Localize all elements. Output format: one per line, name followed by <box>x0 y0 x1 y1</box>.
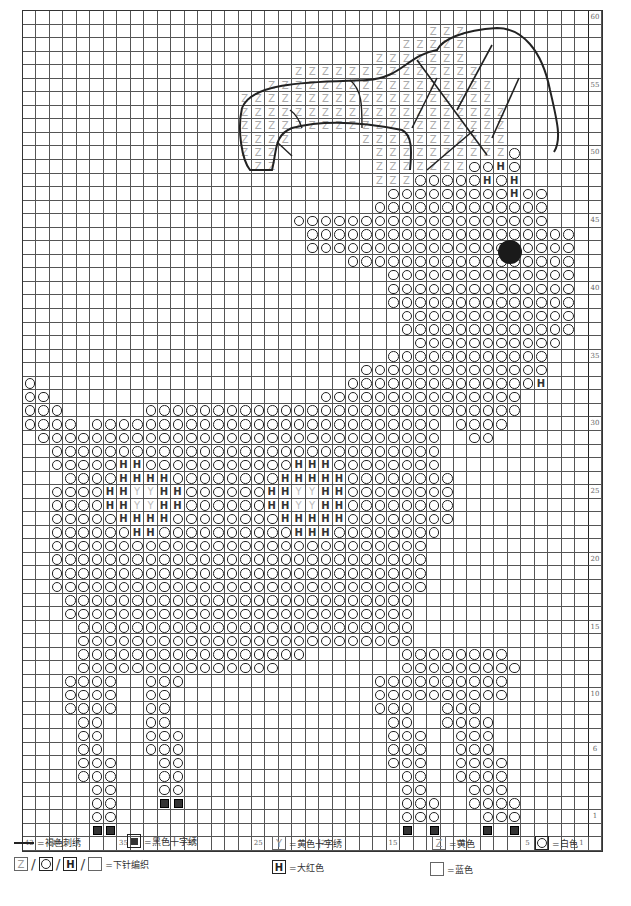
row-label <box>589 336 602 350</box>
blue-stitch <box>63 92 76 106</box>
white-stitch <box>467 255 480 269</box>
red-stitch: H <box>104 485 117 499</box>
white-stitch <box>319 417 332 431</box>
blue-stitch <box>265 174 278 188</box>
white-stitch <box>104 675 117 689</box>
blue-stitch <box>548 661 561 675</box>
white-stitch <box>239 458 252 472</box>
blue-stitch <box>279 756 292 770</box>
white-stitch <box>387 241 400 255</box>
blue-stitch <box>144 350 157 364</box>
white-stitch <box>198 607 211 621</box>
blue-stitch <box>562 566 575 580</box>
white-stitch <box>427 350 440 364</box>
blue-stitch <box>77 255 90 269</box>
blue-stitch <box>252 729 265 743</box>
blue-stitch <box>265 241 278 255</box>
blue-stitch <box>171 688 184 702</box>
blue-stitch <box>50 25 63 39</box>
blue-stitch <box>333 309 346 323</box>
white-stitch <box>239 661 252 675</box>
white-stitch <box>77 458 90 472</box>
blue-stitch <box>198 268 211 282</box>
white-stitch <box>131 553 144 567</box>
blue-stitch <box>306 201 319 215</box>
yellow-stitch: Z <box>427 25 440 39</box>
white-stitch <box>77 526 90 540</box>
white-stitch <box>481 309 494 323</box>
white-stitch <box>360 566 373 580</box>
chart-grid: 60ZZZZZZZZZZZZZZZZZZZZZZZZZZZZZZZZZZZZZZ… <box>22 10 603 852</box>
blue-stitch <box>494 445 507 459</box>
yellow-stitch: Z <box>467 79 480 93</box>
white-stitch <box>346 214 359 228</box>
blue-stitch <box>508 106 521 120</box>
blue-stitch <box>548 201 561 215</box>
white-stitch <box>387 675 400 689</box>
white-stitch <box>319 634 332 648</box>
blue-stitch <box>265 756 278 770</box>
white-stitch <box>333 214 346 228</box>
blue-stitch <box>279 688 292 702</box>
chart-row: ZZZZZZZ <box>23 52 602 66</box>
blue-stitch <box>117 743 130 757</box>
red-stitch: H <box>171 485 184 499</box>
blue-stitch <box>77 797 90 811</box>
yellow-stitch: Z <box>427 160 440 174</box>
blue-stitch <box>185 133 198 147</box>
blue-stitch <box>77 323 90 337</box>
blue-stitch <box>508 634 521 648</box>
white-stitch <box>319 621 332 635</box>
blue-stitch <box>535 594 548 608</box>
row-label: 45 <box>589 214 602 228</box>
blue-stitch <box>171 146 184 160</box>
yellow-stitch: Z <box>454 52 467 66</box>
blue-stitch <box>239 295 252 309</box>
white-stitch <box>333 526 346 540</box>
chart-row <box>23 363 602 377</box>
white-stitch <box>144 648 157 662</box>
white-stitch <box>239 404 252 418</box>
white-stitch <box>508 160 521 174</box>
blue-stitch <box>562 458 575 472</box>
white-stitch <box>346 377 359 391</box>
blue-stitch <box>292 282 305 296</box>
blue-stitch <box>158 390 171 404</box>
blue-stitch <box>265 228 278 242</box>
blue-stitch <box>171 52 184 66</box>
blue-stitch <box>36 526 49 540</box>
blue-stitch <box>521 634 534 648</box>
white-stitch <box>521 187 534 201</box>
white-stitch <box>117 621 130 635</box>
blue-stitch <box>548 499 561 513</box>
blue-stitch <box>306 133 319 147</box>
blue-stitch <box>441 729 454 743</box>
chart-row <box>23 770 602 784</box>
white-stitch <box>346 458 359 472</box>
white-stitch <box>548 241 561 255</box>
blue-stitch <box>252 241 265 255</box>
row-label: 20 <box>589 553 602 567</box>
white-stitch <box>400 702 413 716</box>
blue-stitch <box>158 79 171 93</box>
blue-stitch <box>77 25 90 39</box>
chart-row <box>23 539 602 553</box>
yellow-stitch: Z <box>494 119 507 133</box>
white-stitch <box>185 499 198 513</box>
yellow-cross-stitch: Y <box>306 485 319 499</box>
blue-stitch <box>508 526 521 540</box>
blue-stitch <box>185 160 198 174</box>
blue-stitch <box>158 133 171 147</box>
blue-stitch <box>414 607 427 621</box>
blue-stitch <box>185 363 198 377</box>
blue-stitch <box>36 512 49 526</box>
blue-stitch <box>575 539 588 553</box>
blue-stitch <box>131 404 144 418</box>
blue-stitch <box>90 187 103 201</box>
yellow-stitch: Z <box>427 52 440 66</box>
white-stitch <box>158 743 171 757</box>
white-stitch <box>467 729 480 743</box>
blue-stitch <box>212 336 225 350</box>
blue-stitch <box>265 255 278 269</box>
white-stitch <box>171 675 184 689</box>
